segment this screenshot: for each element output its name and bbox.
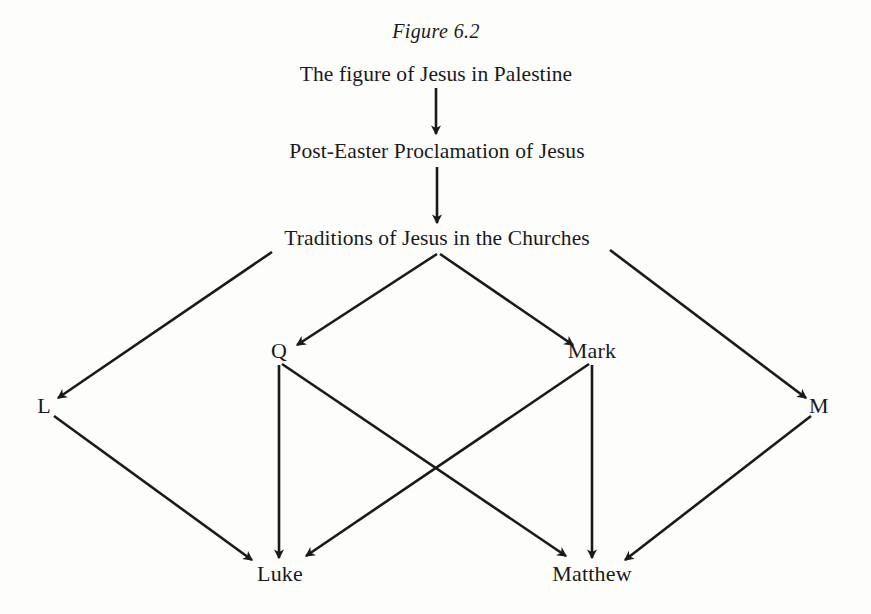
arrow-mark-to-luke	[306, 364, 589, 556]
figure-title: Figure 6.2	[392, 21, 480, 41]
node-mark: Mark	[568, 340, 616, 362]
arrow-m-to-matthew	[625, 416, 811, 560]
node-luke: Luke	[257, 563, 303, 585]
node-q: Q	[271, 340, 287, 362]
node-matthew: Matthew	[552, 563, 632, 585]
node-m: M	[809, 395, 829, 417]
node-the-figure-of-jesus-in-palestine: The figure of Jesus in Palestine	[300, 64, 573, 86]
node-post-easter-proclamation-of-jesus: Post-Easter Proclamation of Jesus	[289, 141, 584, 163]
arrow-traditions-to-l	[58, 252, 272, 398]
arrow-layer	[0, 0, 871, 614]
arrow-l-to-luke	[54, 416, 252, 560]
node-traditions-of-jesus-in-the-churches: Traditions of Jesus in the Churches	[284, 228, 590, 250]
arrow-q-to-matthew	[282, 364, 566, 556]
arrow-traditions-to-m	[610, 250, 806, 398]
figure-container: Figure 6.2 The figure of Jesus in Palest…	[0, 0, 871, 614]
arrow-traditions-to-q	[297, 254, 437, 345]
arrow-traditions-to-mark	[440, 254, 573, 345]
node-l: L	[37, 395, 51, 417]
